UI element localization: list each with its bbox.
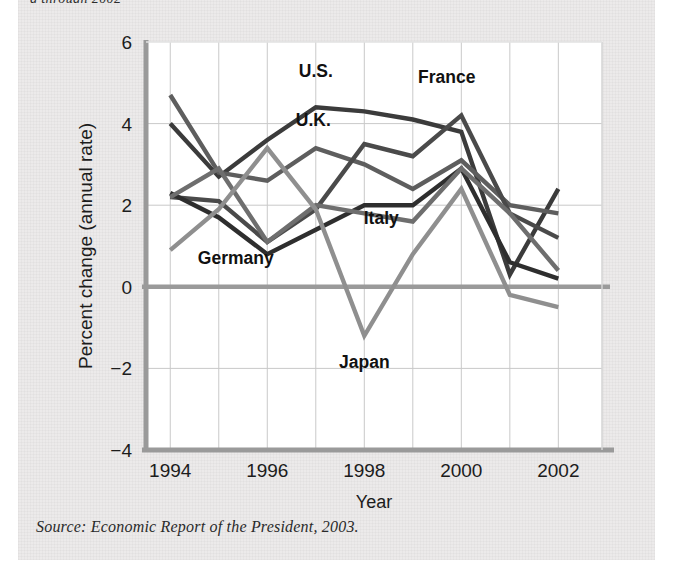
y-tick--2: −2 xyxy=(110,358,132,379)
series-label-france: France xyxy=(418,67,476,87)
line-chart: 6420−2−4 19941996199820002002 U.S.U.K.Fr… xyxy=(0,0,674,577)
series-label-germany: Germany xyxy=(198,248,274,268)
figure-page: g through 2002 6420−2−4 1994199619982000… xyxy=(0,0,674,577)
y-tick-4: 4 xyxy=(121,114,132,135)
y-tick-6: 6 xyxy=(121,32,132,53)
x-tick-2002: 2002 xyxy=(537,460,579,481)
chart-plot-area: 6420−2−4 19941996199820002002 U.S.U.K.Fr… xyxy=(0,0,674,577)
y-tick--4: −4 xyxy=(110,440,132,461)
y-tick-0: 0 xyxy=(121,277,132,298)
series-label-italy: Italy xyxy=(364,208,399,228)
series-label-japan: Japan xyxy=(339,352,390,372)
plot-background xyxy=(146,42,602,450)
y-tick-labels: 6420−2−4 xyxy=(110,32,132,461)
source-note: Source: Economic Report of the President… xyxy=(36,518,359,536)
x-tick-1996: 1996 xyxy=(246,460,288,481)
y-axis-title: Percent change (annual rate) xyxy=(75,123,96,369)
series-label-uk: U.K. xyxy=(296,110,331,130)
series-label-us: U.S. xyxy=(299,61,333,81)
y-tick-2: 2 xyxy=(121,195,132,216)
x-axis-title: Year xyxy=(356,492,392,512)
x-tick-2000: 2000 xyxy=(440,460,482,481)
x-tick-1998: 1998 xyxy=(343,460,385,481)
x-tick-1994: 1994 xyxy=(149,460,192,481)
x-tick-labels: 19941996199820002002 xyxy=(149,460,579,481)
